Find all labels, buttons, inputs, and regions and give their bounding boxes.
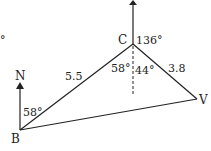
stray-degree-mark: ° (0, 34, 6, 47)
side-bc-length: 5.5 (65, 70, 83, 83)
point-c-label: C (118, 33, 127, 47)
bearing-diagram: ° N C B V 5.5 3.8 136° 58° 44° 58° (0, 0, 211, 151)
north-arrow-c-icon (129, 0, 137, 5)
angle-c-left: 58° (111, 62, 131, 75)
north-arrow-b-icon (16, 82, 24, 89)
angle-c-right: 44° (135, 64, 155, 77)
side-bv (20, 99, 197, 130)
angle-b-bearing: 58° (23, 106, 43, 119)
angle-c-bearing: 136° (136, 34, 163, 47)
north-label: N (15, 69, 26, 83)
side-cv-length: 3.8 (168, 62, 186, 75)
point-b-label: B (11, 132, 20, 146)
point-v-label: V (198, 93, 208, 107)
